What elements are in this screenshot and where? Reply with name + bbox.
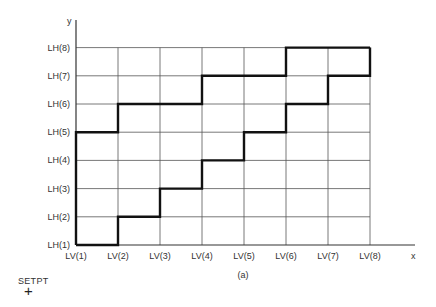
setpt-label: SETPT	[18, 276, 49, 286]
y-tick-label: LH(7)	[47, 71, 70, 81]
grid-lines	[76, 48, 370, 245]
y-axis-label: y	[67, 16, 72, 26]
x-axis-label: x	[411, 251, 416, 261]
x-tick-label: LV(4)	[191, 251, 212, 261]
x-tick-label: LV(6)	[275, 251, 296, 261]
staircase-grid-diagram: LH(1)LH(2)LH(3)LH(4)LH(5)LH(6)LH(7)LH(8)…	[0, 0, 436, 307]
y-tick-label: LH(2)	[47, 212, 70, 222]
y-tick-labels: LH(1)LH(2)LH(3)LH(4)LH(5)LH(6)LH(7)LH(8)	[47, 43, 70, 250]
figure-caption: (a)	[238, 270, 249, 280]
x-tick-label: LV(3)	[149, 251, 170, 261]
x-tick-label: LV(5)	[233, 251, 254, 261]
lower-staircase-path	[76, 48, 370, 245]
y-tick-label: LH(4)	[47, 155, 70, 165]
y-tick-label: LH(8)	[47, 43, 70, 53]
x-tick-labels: LV(1)LV(2)LV(3)LV(4)LV(5)LV(6)LV(7)LV(8)	[65, 251, 380, 261]
x-tick-label: LV(1)	[65, 251, 86, 261]
y-tick-label: LH(3)	[47, 184, 70, 194]
setpt-plus-marker: +	[24, 283, 33, 298]
x-tick-label: LV(2)	[107, 251, 128, 261]
y-tick-label: LH(6)	[47, 99, 70, 109]
y-tick-label: LH(1)	[47, 240, 70, 250]
y-tick-label: LH(5)	[47, 127, 70, 137]
x-tick-label: LV(7)	[317, 251, 338, 261]
upper-staircase-path	[76, 48, 370, 245]
x-tick-label: LV(8)	[359, 251, 380, 261]
